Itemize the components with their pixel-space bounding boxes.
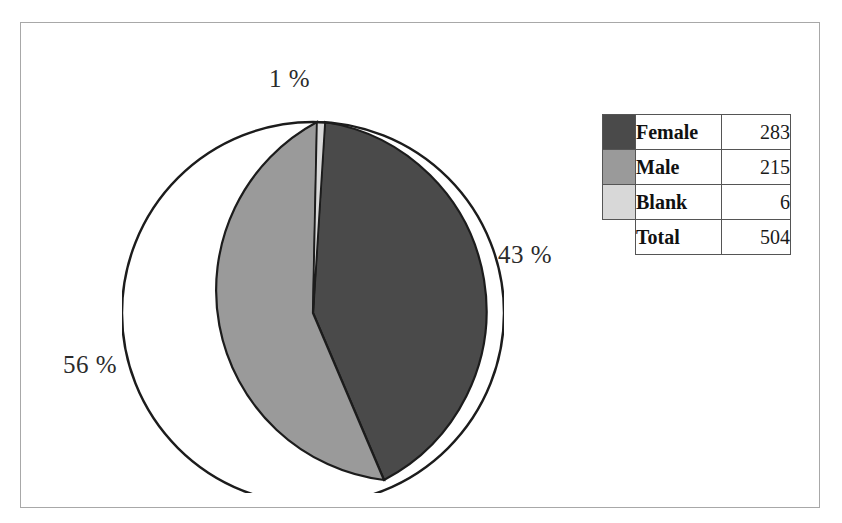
legend-value-male: 215: [722, 150, 791, 185]
legend-label-total: Total: [636, 220, 722, 255]
legend-value-female: 283: [722, 115, 791, 150]
legend-label-male: Male: [636, 150, 722, 185]
page-frame: 1 % 43 % 56 % Female 283 Male 215 Blank …: [20, 22, 820, 508]
legend-label-female: Female: [636, 115, 722, 150]
legend-swatch-blank: [603, 185, 636, 220]
table-row: Total 504: [603, 220, 791, 255]
legend-swatch-male: [603, 150, 636, 185]
legend-table-body: Female 283 Male 215 Blank 6 Total 504: [603, 115, 791, 255]
legend-label-blank: Blank: [636, 185, 722, 220]
legend-value-blank: 6: [722, 185, 791, 220]
legend-swatch-total: [603, 220, 636, 255]
legend-table: Female 283 Male 215 Blank 6 Total 504: [602, 114, 791, 255]
pie-label-blank: 1 %: [269, 65, 310, 93]
legend-swatch-female: [603, 115, 636, 150]
pie-chart: [122, 111, 504, 493]
pie-label-male: 56 %: [63, 351, 117, 379]
table-row: Male 215: [603, 150, 791, 185]
legend-value-total: 504: [722, 220, 791, 255]
table-row: Female 283: [603, 115, 791, 150]
table-row: Blank 6: [603, 185, 791, 220]
pie-label-female: 43 %: [498, 241, 552, 269]
